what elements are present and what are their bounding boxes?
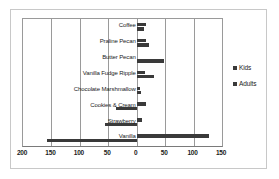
category-label: Vanilla Fudge Ripple <box>83 70 136 77</box>
category-label: Strawberry <box>108 118 136 125</box>
legend-item-kids: Kids <box>233 64 265 71</box>
bar-adults <box>137 91 142 94</box>
x-axis-tick-label: 100 <box>74 149 84 156</box>
table-row: Chocolate Marshmallow <box>23 83 222 99</box>
table-row: Coffee <box>23 19 222 35</box>
x-axis-tick-label: 150 <box>216 149 226 156</box>
bar-adults <box>137 27 144 30</box>
x-axis-tick-label: 200 <box>17 149 27 156</box>
x-axis-tick-label: 50 <box>161 149 168 156</box>
legend-item-adults: Adults <box>233 80 265 87</box>
table-row: Vanilla Fudge Ripple <box>23 67 222 83</box>
category-label: Chocolate Marshmallow <box>74 86 136 93</box>
plot-area: CoffeePraline PecanButter PecanVanilla F… <box>22 18 223 147</box>
bar-adults <box>137 43 150 46</box>
gridline <box>222 19 223 146</box>
bar-rows: CoffeePraline PecanButter PecanVanilla F… <box>23 19 222 146</box>
category-label: Vanilla <box>119 133 136 140</box>
bar-kids <box>137 23 147 26</box>
x-axis-tick-labels: 20015010050050100150 <box>22 149 223 161</box>
bar-adults <box>137 59 164 62</box>
category-label: Praline Pecan <box>100 38 136 45</box>
bar-kids <box>137 134 209 137</box>
bar-kids <box>137 87 140 90</box>
x-axis-tick-label: 100 <box>187 149 197 156</box>
category-label: Coffee <box>119 22 136 29</box>
x-axis-tick-label: 0 <box>134 149 137 156</box>
table-row: Praline Pecan <box>23 35 222 51</box>
category-label: Butter Pecan <box>102 54 136 61</box>
table-row: Cookies & Cream <box>23 98 222 114</box>
table-row: Strawberry <box>23 114 222 130</box>
x-axis-tick-label: 50 <box>104 149 111 156</box>
bar-kids <box>137 102 147 105</box>
legend-label: Kids <box>239 64 251 71</box>
table-row: Vanilla <box>23 130 222 146</box>
chart-legend: Kids Adults <box>233 64 265 96</box>
legend-label: Adults <box>239 80 256 87</box>
legend-swatch-icon <box>233 66 237 70</box>
legend-swatch-icon <box>233 82 237 86</box>
chart-panel: CoffeePraline PecanButter PecanVanilla F… <box>10 9 267 169</box>
x-axis-tick-label: 150 <box>45 149 55 156</box>
category-label: Cookies & Cream <box>90 102 136 109</box>
bar-kids <box>137 71 145 74</box>
bar-kids <box>137 39 147 42</box>
table-row: Butter Pecan <box>23 51 222 67</box>
bar-kids <box>137 118 143 121</box>
bar-adults <box>137 75 154 78</box>
